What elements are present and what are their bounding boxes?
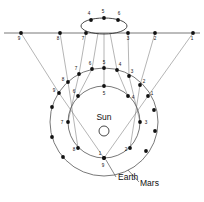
mars-point-number-8: 8	[62, 77, 65, 82]
mars-point-number-3: 3	[131, 69, 134, 74]
earth-point-number-8: 8	[73, 147, 76, 152]
earth-point-marker-6	[76, 94, 80, 98]
earth-point-marker-3	[138, 120, 142, 124]
sun-label: Sun	[96, 112, 111, 122]
mars-point-number-9: 9	[53, 88, 56, 93]
sky-point-number-1: 1	[191, 36, 194, 41]
mars-point-number-6: 6	[89, 61, 92, 66]
earth-point-marker-2	[128, 146, 132, 150]
earth-point-number-1: 1	[99, 151, 102, 156]
loop-point-marker-6	[116, 18, 120, 22]
loop-point-marker-4	[89, 18, 93, 22]
mars-extra-4-marker	[153, 129, 157, 133]
earth-point-number-6: 6	[73, 89, 76, 94]
mars-point-marker-1	[146, 94, 150, 98]
earth-point-number-7: 7	[61, 120, 64, 125]
sky-point-marker-1	[191, 31, 195, 35]
sky-point-number-9: 9	[18, 36, 21, 41]
earth-point-number-5: 5	[103, 91, 106, 96]
mars-extra-5-marker	[152, 108, 156, 112]
sky-point-number-2: 2	[154, 36, 157, 41]
mars-point-number-1: 1	[151, 91, 154, 96]
mars-extra-0-marker	[50, 105, 54, 109]
earth-point-marker-5	[102, 84, 106, 88]
loop-point-number-4: 4	[88, 11, 91, 16]
retrograde-loop-ellipse	[81, 18, 127, 34]
sight-line-9	[21, 33, 104, 158]
sky-point-marker-2	[153, 31, 157, 35]
sky-point-number-3: 3	[127, 36, 130, 41]
sky-point-marker-3	[126, 31, 130, 35]
position-markers-group	[19, 16, 195, 160]
sky-point-number-7: 7	[82, 36, 85, 41]
mars-point-marker-3	[127, 74, 131, 78]
sky-point-marker-9	[19, 31, 23, 35]
sky-point-marker-7	[84, 31, 88, 35]
earth-label: Earth	[118, 172, 139, 182]
retrograde-motion-diagram: 987321456987654321543219876 Sun Earth Ma…	[0, 0, 204, 202]
mars-point-marker-2	[138, 83, 142, 87]
earth-point-marker-4	[126, 94, 130, 98]
sun-symbol	[99, 126, 109, 136]
earth-point-number-4: 4	[132, 95, 135, 100]
earth-point-marker-9	[102, 156, 106, 160]
mars-point-marker-8	[66, 80, 70, 84]
earth-point-number-3: 3	[145, 120, 148, 125]
mars-extra-3-marker	[144, 149, 148, 153]
mars-extra-2-marker	[61, 155, 65, 159]
mars-point-number-5: 5	[103, 60, 106, 65]
diagram-canvas: 987321456987654321543219876 Sun Earth Ma…	[0, 0, 204, 202]
mars-point-marker-9	[57, 91, 61, 95]
sky-point-marker-8	[58, 31, 62, 35]
earth-point-number-9: 9	[102, 163, 105, 168]
mars-point-marker-6	[90, 67, 94, 71]
celestial-sphere-line-group	[4, 18, 200, 34]
earth-point-marker-7	[66, 120, 70, 124]
earth-point-number-2: 2	[125, 147, 128, 152]
loop-point-number-5: 5	[102, 9, 105, 14]
mars-point-marker-4	[115, 68, 119, 72]
earth-leader	[106, 160, 116, 177]
mars-point-number-4: 4	[119, 62, 122, 67]
mars-extra-1-marker	[50, 135, 54, 139]
mars-point-number-7: 7	[75, 66, 78, 71]
loop-point-number-6: 6	[118, 11, 121, 16]
mars-point-number-2: 2	[143, 79, 146, 84]
mars-label: Mars	[140, 178, 159, 188]
sky-point-number-8: 8	[57, 36, 60, 41]
mars-point-marker-7	[77, 72, 81, 76]
mars-point-marker-5	[102, 66, 106, 70]
loop-point-marker-5	[102, 16, 106, 20]
sight-lines-group	[21, 33, 193, 158]
earth-point-marker-8	[76, 146, 80, 150]
